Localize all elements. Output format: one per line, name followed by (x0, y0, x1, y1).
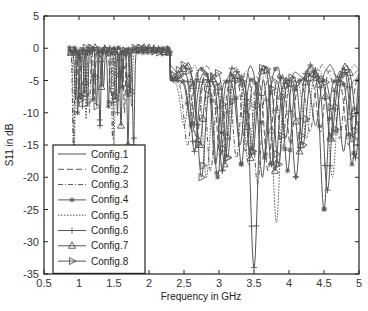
x-tick-label: 5 (356, 277, 362, 289)
data-marker (209, 98, 214, 103)
data-marker (258, 93, 264, 99)
y-tick-label: -10 (23, 107, 39, 119)
data-marker (204, 72, 209, 77)
data-marker (215, 175, 220, 180)
data-marker (251, 265, 257, 271)
data-marker (239, 162, 244, 167)
x-tick-label: 4.5 (316, 277, 331, 289)
x-axis-title: Frequency in GHz (161, 291, 242, 302)
y-tick-label: -15 (23, 139, 39, 151)
data-marker (253, 223, 259, 229)
legend: Config.1Config.2Config.3Config.4Config.5… (53, 145, 145, 273)
y-tick-label: -25 (23, 204, 39, 216)
data-marker (322, 207, 327, 212)
data-marker (248, 77, 253, 82)
legend-label: Config.6 (91, 225, 129, 236)
data-marker (80, 103, 86, 109)
data-marker (106, 104, 111, 109)
legend-label: Config.3 (91, 179, 129, 190)
data-marker (91, 97, 96, 102)
y-tick-label: -30 (23, 236, 39, 248)
x-tick-label: 3 (216, 277, 222, 289)
y-tick-label: 5 (33, 10, 39, 22)
legend-label: Config.1 (91, 149, 129, 160)
legend-label: Config.7 (91, 240, 129, 251)
data-marker (185, 78, 191, 84)
data-marker (258, 120, 263, 125)
data-marker (350, 162, 355, 167)
y-tick-label: -35 (23, 268, 39, 280)
data-marker (131, 135, 137, 141)
data-marker (229, 65, 235, 71)
x-tick-label: 3.5 (246, 277, 261, 289)
x-tick-label: 1 (76, 277, 82, 289)
data-marker (97, 123, 103, 129)
data-marker (293, 174, 299, 180)
y-tick-label: -5 (29, 75, 39, 87)
data-marker (273, 66, 278, 71)
data-marker (327, 163, 333, 169)
data-marker (283, 147, 288, 152)
x-tick-label: 4 (286, 277, 292, 289)
legend-label: Config.2 (91, 164, 129, 175)
y-tick-label: 0 (33, 42, 39, 54)
legend-label: Config.5 (91, 210, 129, 221)
x-tick-label: 1.5 (106, 277, 121, 289)
data-marker (214, 170, 219, 175)
data-marker (220, 168, 226, 174)
legend-label: Config.4 (91, 194, 129, 205)
y-tick-label: -20 (23, 171, 39, 183)
data-marker (180, 79, 185, 84)
data-marker (317, 124, 322, 129)
data-marker (75, 110, 80, 115)
data-marker (199, 66, 204, 71)
s11-chart: 0.511.522.533.544.55 50-5-10-15-20-25-30… (0, 0, 368, 311)
x-tick-label: 2.5 (176, 277, 191, 289)
y-axis-title: S11 in dB (4, 123, 15, 166)
data-marker (97, 117, 103, 123)
data-marker (192, 148, 198, 154)
data-marker (263, 152, 268, 157)
data-marker (70, 197, 75, 202)
data-marker (285, 168, 290, 173)
data-marker (262, 155, 267, 160)
data-marker (317, 84, 323, 90)
data-marker (115, 110, 121, 116)
data-marker (121, 65, 126, 70)
data-marker (288, 148, 293, 153)
x-tick-label: 2 (146, 277, 152, 289)
legend-label: Config.8 (91, 256, 129, 267)
